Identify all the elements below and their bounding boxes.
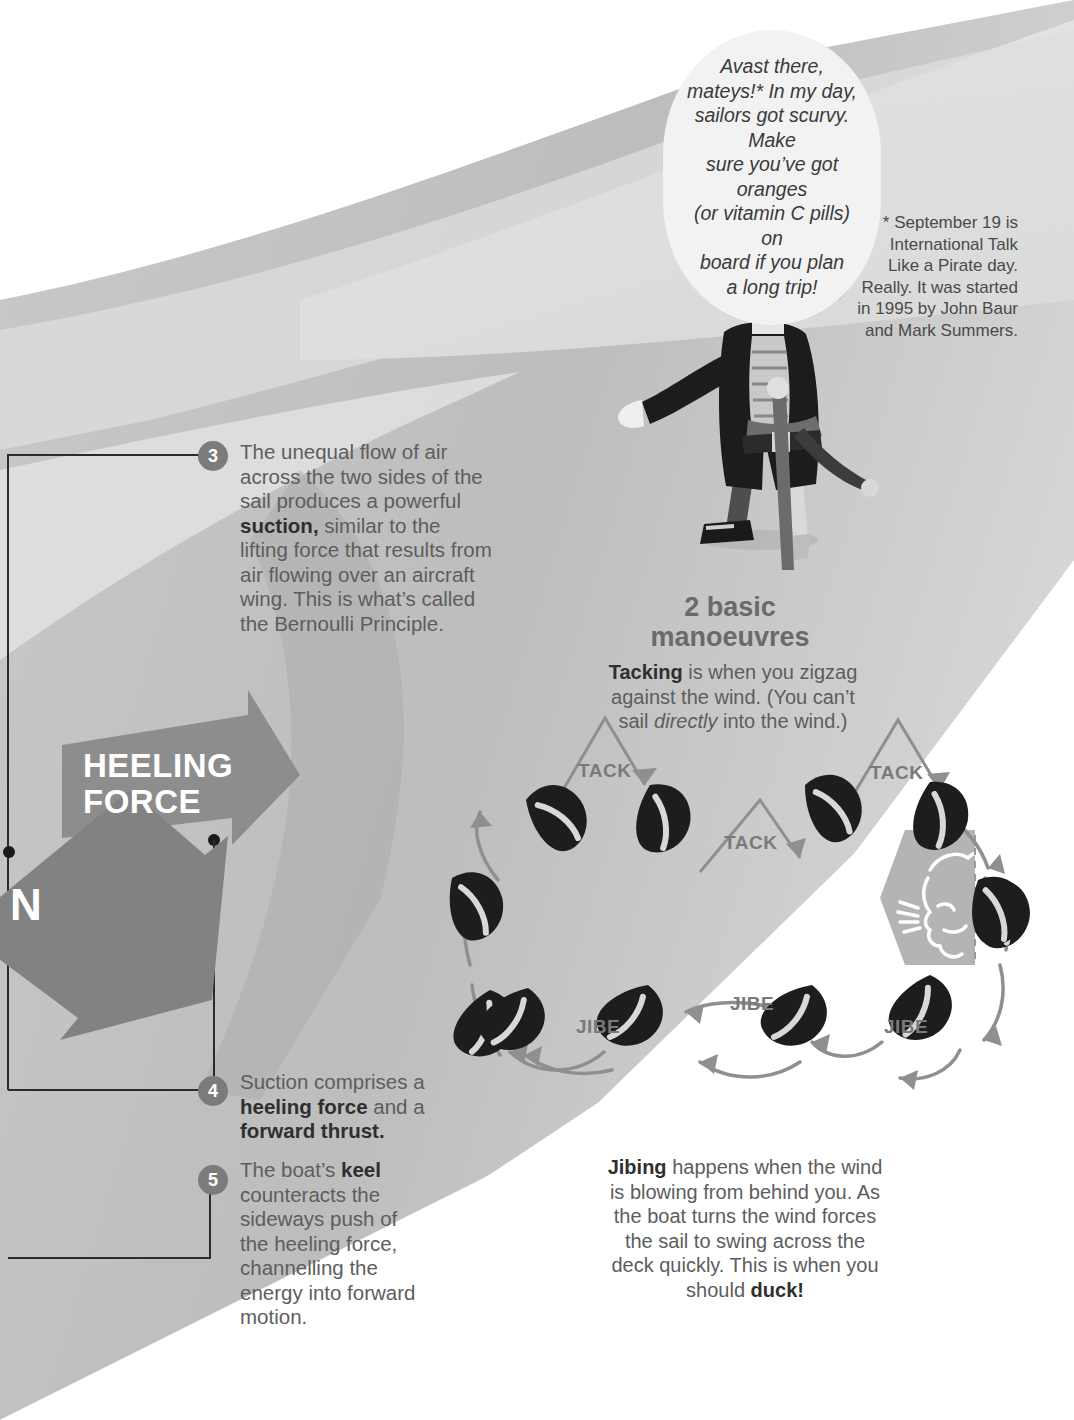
footnote-line: Like a Pirate day.	[888, 256, 1018, 275]
jibe-label-centre: JIBE	[730, 993, 774, 1015]
tack-label-left: TACK	[578, 760, 631, 782]
tacking-term: Tacking	[609, 661, 683, 683]
tacking-seg: into the wind.)	[717, 710, 847, 732]
footnote-line: and Mark Summers.	[865, 321, 1018, 340]
tacking-description: Tacking is when you zigzag against the w…	[600, 660, 866, 734]
bubble-line: sailors got scurvy. Make	[695, 104, 850, 151]
tack-label-right: TACK	[870, 762, 923, 784]
footnote-line: in 1995 by John Baur	[857, 299, 1018, 318]
step-text-3: The unequal flow of air across the two s…	[240, 440, 492, 636]
step-3-seg: The unequal flow of air across the two s…	[240, 440, 483, 512]
step-4-bold: heeling force	[240, 1095, 368, 1118]
step-5-seg: The boat’s	[240, 1158, 341, 1181]
jibe-label-left: JIBE	[576, 1016, 620, 1038]
suction-force-label: N	[10, 880, 42, 930]
manoeuvres-title-line2: manoeuvres	[650, 622, 809, 652]
jibing-description: Jibing happens when the wind is blowing …	[605, 1155, 885, 1302]
bubble-line: board if you plan	[700, 251, 844, 273]
step-5-seg: counteracts the sideways push of the hee…	[240, 1183, 415, 1329]
footnote-line: Really. It was started	[861, 278, 1018, 297]
infographic-canvas: Avast there, mateys!* In my day, sailors…	[0, 0, 1074, 1420]
step-5-bold: keel	[341, 1158, 381, 1181]
step-4-seg: Suction comprises a	[240, 1070, 425, 1093]
footnote-line: International Talk	[890, 235, 1018, 254]
tack-label-centre: TACK	[724, 832, 777, 854]
pirate-day-footnote: * September 19 is International Talk Lik…	[843, 212, 1018, 341]
bubble-line: Avast there,	[720, 55, 824, 77]
manoeuvres-title: 2 basic manoeuvres	[625, 592, 835, 652]
heeling-force-line2: FORCE	[83, 783, 201, 820]
bubble-line: a long trip!	[726, 276, 817, 298]
step-text-5: The boat’s keel counteracts the sideways…	[240, 1158, 425, 1330]
tacking-emphasis: directly	[654, 710, 717, 732]
step-bullet-5: 5	[198, 1165, 228, 1195]
jibing-duck: duck!	[751, 1279, 804, 1301]
footnote-line: * September 19 is	[883, 213, 1018, 232]
step-bullet-3: 3	[198, 441, 228, 471]
jibe-label-right: JIBE	[884, 1016, 928, 1038]
step-text-4: Suction comprises a heeling force and a …	[240, 1070, 425, 1144]
heeling-force-label: HEELING FORCE	[83, 748, 233, 820]
bubble-line: sure you’ve got oranges	[706, 153, 838, 200]
manoeuvres-title-line1: 2 basic	[684, 592, 776, 622]
step-3-bold: suction,	[240, 514, 319, 537]
step-4-bold: forward thrust.	[240, 1119, 385, 1142]
step-bullet-4: 4	[198, 1076, 228, 1106]
step-4-seg: and a	[368, 1095, 425, 1118]
bubble-line: mateys!* In my day,	[687, 80, 857, 102]
jibing-term: Jibing	[608, 1156, 667, 1178]
bubble-line: (or vitamin C pills) on	[694, 202, 850, 249]
heeling-force-line1: HEELING	[83, 747, 233, 784]
